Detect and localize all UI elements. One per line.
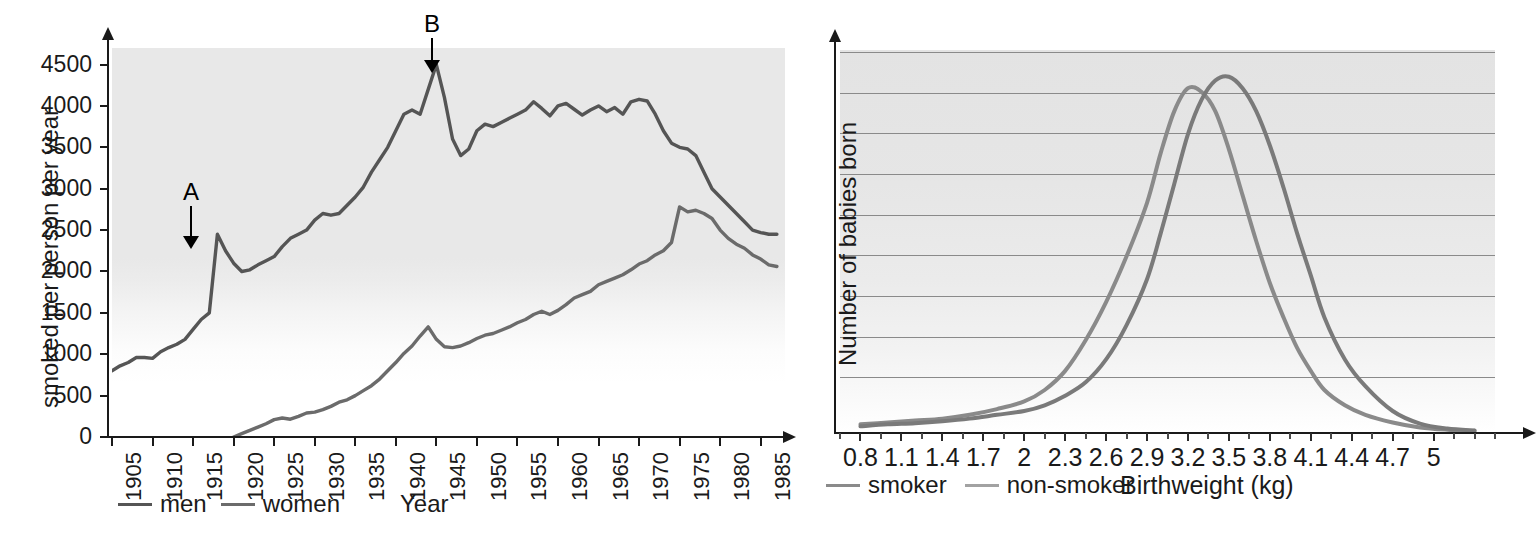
x-tick-minor — [1371, 433, 1373, 439]
x-tick — [760, 437, 762, 446]
x-tick — [476, 437, 478, 446]
x-tick-label-birthweight: 2.3 — [1048, 443, 1083, 472]
x-tick-label-birthweight: 0.8 — [843, 443, 878, 472]
x-tick — [273, 437, 275, 446]
x-tick — [1023, 433, 1025, 441]
y-tick — [100, 312, 109, 314]
x-tick — [111, 437, 113, 446]
series-line-smoker — [860, 87, 1474, 431]
x-tick — [941, 433, 943, 441]
x-tick — [233, 437, 235, 446]
figure-page: 450040003500300025002000150010005000 190… — [0, 0, 1538, 557]
x-tick-label-birthweight: 1.7 — [966, 443, 1001, 472]
legend-label-women: women — [263, 492, 340, 516]
y-tick — [100, 395, 109, 397]
x-tick-label-birthweight: 4.4 — [1334, 443, 1369, 472]
x-tick-label-year: 1945 — [445, 452, 471, 501]
x-tick — [1187, 433, 1189, 441]
annotation-a-stem — [190, 206, 192, 238]
x-tick — [719, 437, 721, 446]
y-tick — [100, 353, 109, 355]
legend-item-women: women — [221, 492, 340, 516]
x-tick-label-birthweight: 1.4 — [925, 443, 960, 472]
x-tick — [152, 437, 154, 446]
y-tick — [100, 436, 109, 438]
x-tick — [1351, 433, 1353, 441]
right-y-axis-label: Number of babies born — [834, 44, 862, 444]
annotation-b-arrowhead — [424, 60, 440, 73]
y-tick — [100, 105, 109, 107]
x-tick-label-birthweight: 2.6 — [1089, 443, 1124, 472]
x-tick-minor — [1494, 433, 1496, 439]
annotation-a-arrowhead — [183, 236, 199, 249]
x-tick — [1392, 433, 1394, 441]
x-tick — [314, 437, 316, 446]
x-tick-minor — [1085, 433, 1087, 439]
left-legend: men women — [118, 492, 340, 516]
x-tick-label-birthweight: 1.1 — [884, 443, 919, 472]
y-tick — [100, 270, 109, 272]
x-tick-label-year: 1970 — [648, 452, 674, 501]
x-tick-label-year: 1960 — [567, 452, 593, 501]
legend-swatch-non-smoker — [965, 484, 999, 487]
x-tick-minor — [1207, 433, 1209, 439]
x-tick-minor — [1289, 433, 1291, 439]
x-tick — [1433, 433, 1435, 441]
x-tick-minor — [1167, 433, 1169, 439]
x-tick — [1228, 433, 1230, 441]
legend-swatch-women — [221, 503, 255, 506]
legend-label-men: men — [160, 492, 207, 516]
right-y-axis-arrow-icon — [829, 29, 841, 42]
x-tick — [192, 437, 194, 446]
x-tick — [354, 437, 356, 446]
left-x-axis-arrow-icon — [783, 431, 796, 443]
x-tick-minor — [1330, 433, 1332, 439]
right-series-svg — [840, 50, 1495, 432]
x-tick — [516, 437, 518, 446]
x-tick-label-year: 1935 — [364, 452, 390, 501]
x-tick — [557, 437, 559, 446]
x-tick-label-year: 1955 — [526, 452, 552, 501]
x-tick-minor — [921, 433, 923, 439]
left-x-axis-label: Year — [400, 490, 449, 518]
x-tick-label-birthweight: 3.5 — [1212, 443, 1247, 472]
annotation-a-label: A — [183, 178, 199, 206]
x-tick-minor — [962, 433, 964, 439]
x-tick — [1310, 433, 1312, 441]
y-tick — [100, 146, 109, 148]
x-tick — [638, 437, 640, 446]
y-tick — [100, 188, 109, 190]
x-tick-minor — [1003, 433, 1005, 439]
x-tick-minor — [1453, 433, 1455, 439]
x-tick-label-year: 1985 — [770, 452, 796, 501]
x-tick-minor — [880, 433, 882, 439]
left-x-axis — [107, 436, 786, 438]
x-tick-label-birthweight: 2 — [1017, 443, 1031, 472]
x-tick-label-birthweight: 5 — [1427, 443, 1441, 472]
x-tick — [395, 437, 397, 446]
x-tick — [1105, 433, 1107, 441]
legend-label-non-smoker: non-smoker — [1007, 473, 1134, 497]
legend-label-smoker: smoker — [868, 473, 947, 497]
legend-item-non-smoker: non-smoker — [965, 473, 1134, 497]
legend-item-men: men — [118, 492, 207, 516]
x-tick — [900, 433, 902, 441]
x-tick-label-year: 1950 — [486, 452, 512, 501]
right-x-axis-label: Birthweight (kg) — [1120, 473, 1294, 498]
x-tick — [598, 437, 600, 446]
x-tick — [1064, 433, 1066, 441]
x-tick-label-birthweight: 4.7 — [1375, 443, 1410, 472]
left-y-axis-arrow-icon — [102, 27, 114, 40]
right-plot-area — [840, 50, 1495, 432]
x-tick-label-birthweight: 3.2 — [1171, 443, 1206, 472]
x-tick-label-year: 1980 — [729, 452, 755, 501]
x-tick-label-birthweight: 2.9 — [1130, 443, 1165, 472]
right-legend: smoker non-smoker — [826, 473, 1133, 497]
cigarette-consumption-chart: 450040003500300025002000150010005000 190… — [0, 0, 800, 557]
x-tick-label-birthweight: 3.8 — [1252, 443, 1287, 472]
left-y-axis — [107, 36, 109, 438]
x-tick-minor — [1126, 433, 1128, 439]
x-tick — [435, 437, 437, 446]
legend-swatch-men — [118, 503, 152, 506]
x-tick-label-year: 1975 — [689, 452, 715, 501]
